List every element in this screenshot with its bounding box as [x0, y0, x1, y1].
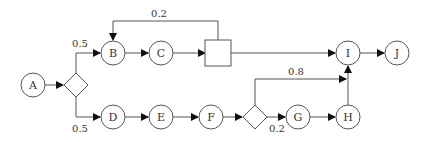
node-f-label: F — [207, 111, 215, 124]
node-a-label: A — [28, 79, 38, 92]
edge-split1-b — [76, 53, 100, 73]
node-b: B — [101, 41, 125, 65]
node-h: H — [336, 105, 360, 129]
process-flow-diagram: 0.5 0.5 0.2 0.8 0.2 A B C I J D E F — [0, 0, 427, 142]
node-h-label: H — [343, 111, 353, 124]
node-i-label: I — [346, 47, 350, 60]
edge-split1-d — [76, 97, 100, 117]
node-g-label: G — [294, 111, 303, 124]
node-b-label: B — [109, 47, 117, 60]
node-d-label: D — [109, 111, 118, 124]
label-split2-i: 0.8 — [288, 66, 304, 77]
node-f: F — [199, 105, 223, 129]
box-node — [205, 40, 231, 66]
label-split1-b: 0.5 — [72, 38, 88, 49]
node-e-label: E — [157, 111, 165, 124]
node-j-label: J — [394, 47, 399, 60]
node-a: A — [21, 73, 45, 97]
node-e: E — [149, 105, 173, 129]
label-split2-g: 0.2 — [269, 123, 285, 134]
node-i: I — [336, 41, 360, 65]
node-c: C — [149, 41, 173, 65]
label-split1-d: 0.5 — [72, 123, 88, 134]
split2-diamond — [243, 105, 267, 129]
edge-split2-i — [255, 79, 346, 105]
node-j: J — [385, 41, 409, 65]
edges — [45, 21, 384, 117]
split1-diamond — [64, 73, 88, 97]
label-box-feedback: 0.2 — [151, 8, 167, 19]
node-c-label: C — [157, 47, 165, 60]
edge-box-b-feedback — [113, 21, 218, 40]
node-g: G — [286, 105, 310, 129]
node-d: D — [101, 105, 125, 129]
